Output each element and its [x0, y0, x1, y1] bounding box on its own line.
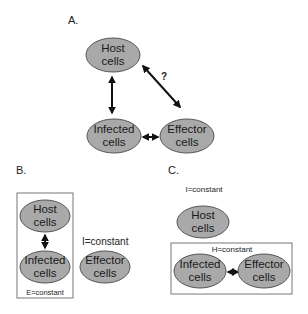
cell-label-line2: cells	[188, 271, 211, 283]
h-constant-label: H=constant	[212, 245, 253, 254]
panel-c: C. I=constant Host cells H=constant Infe…	[168, 164, 292, 294]
panel-a-label: A.	[68, 14, 78, 26]
panel-b-infected-cells: Infected cells	[20, 251, 70, 283]
cell-label-line1: Effector	[167, 123, 207, 135]
cell-label-line1: Infected	[94, 123, 135, 135]
cell-label-line1: Effector	[85, 254, 125, 266]
panel-a-infected-cells: Infected cells	[87, 119, 141, 153]
cell-label-line1: Infected	[25, 254, 66, 266]
cell-label-line1: Host	[33, 203, 57, 215]
panel-b-label: B.	[16, 164, 26, 176]
panel-b-host-cells: Host cells	[20, 200, 70, 232]
cell-label-line2: cells	[252, 271, 275, 283]
panel-c-host-cells: Host cells	[177, 206, 229, 238]
panel-c-infected-cells: Infected cells	[174, 254, 226, 288]
question-mark: ?	[161, 71, 167, 82]
cell-label-line2: cells	[33, 267, 56, 279]
cell-label-line2: cells	[102, 136, 125, 148]
cell-label-line1: Infected	[180, 258, 221, 270]
panel-b: B. Host cells Infected cells E=constant …	[16, 164, 130, 298]
panel-c-label: C.	[168, 164, 179, 176]
cell-label-line1: Host	[101, 42, 125, 54]
e-constant-label: E=constant	[26, 288, 65, 297]
cell-label-line2: cells	[101, 55, 124, 67]
cell-label-line2: cells	[93, 267, 116, 279]
i-constant-label: I=constant	[82, 236, 129, 247]
i-constant-label: I=constant	[185, 185, 223, 194]
cell-label-line2: cells	[33, 216, 56, 228]
diagram-canvas: A. Host cells Infected cells Effector ce…	[0, 0, 308, 314]
panel-b-effector-cells: Effector cells	[80, 251, 130, 283]
panel-c-effector-cells: Effector cells	[238, 254, 290, 288]
panel-a-host-cells: Host cells	[86, 38, 140, 72]
panel-a: A. Host cells Infected cells Effector ce…	[68, 14, 214, 153]
cell-label-line2: cells	[175, 136, 198, 148]
cell-label-line2: cells	[191, 222, 214, 234]
cell-label-line1: Effector	[244, 258, 284, 270]
panel-a-effector-cells: Effector cells	[160, 119, 214, 153]
cell-label-line1: Host	[191, 209, 215, 221]
